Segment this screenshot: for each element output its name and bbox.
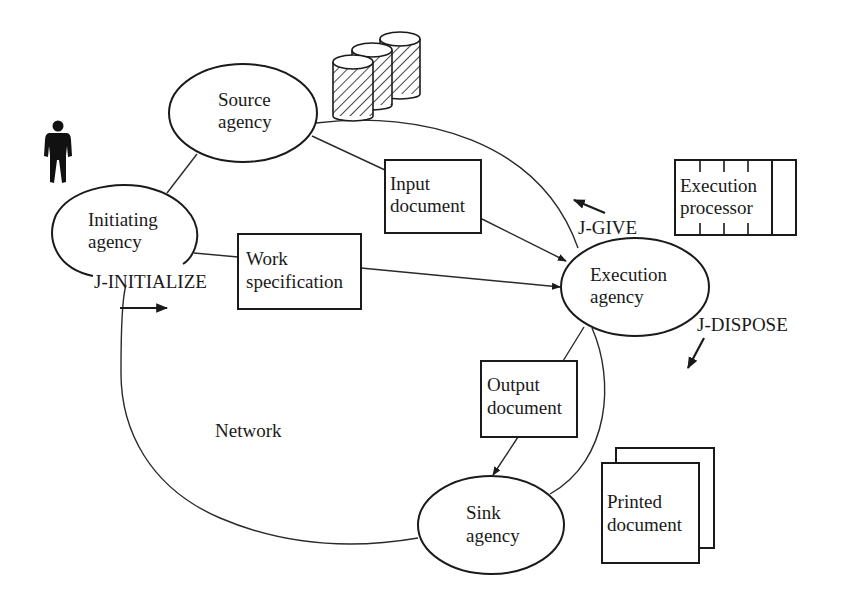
edge-input-document-execution (482, 219, 566, 261)
j-dispose-label: J-DISPOSE (697, 314, 788, 335)
j-give-label: J-GIVE (578, 217, 637, 238)
sink-agency-label-line1: Sink (466, 502, 501, 523)
person-icon (44, 121, 72, 184)
j-give-arrow-icon (574, 200, 605, 213)
work-specification-label-line2: specification (246, 271, 344, 292)
initiating-agency-label-line2: agency (88, 231, 142, 252)
edges (121, 120, 605, 544)
sink-agency-label-line2: agency (466, 525, 520, 546)
edge-source-input-document (312, 136, 385, 170)
edge-initiating-source (167, 154, 197, 193)
cylinder-1 (333, 55, 373, 121)
j-initialize-label: J-INITIALIZE (94, 271, 207, 292)
execution-agency-node: Execution agency (561, 238, 709, 336)
output-document-label-line1: Output (487, 374, 541, 395)
work-specification-label-line1: Work (246, 248, 288, 269)
network-boundary-curve (121, 285, 418, 544)
source-agency-node: Source agency (169, 64, 317, 162)
execution-processor-label-line1: Execution (680, 175, 758, 196)
work-specification-box: Work specification (238, 234, 361, 309)
edge-execution-output-document (563, 327, 584, 361)
execution-agency-label-line2: agency (590, 286, 644, 307)
execution-processor-label-line2: processor (680, 197, 753, 218)
execution-processor-box: Execution processor (675, 160, 796, 235)
source-agency-label-line2: agency (218, 111, 272, 132)
job-network-diagram: Source agency Initiating agency J-INITIA… (0, 0, 843, 609)
sink-agency-node: Sink agency (418, 476, 564, 574)
edge-work-spec-execution (361, 268, 560, 287)
network-label: Network (215, 420, 282, 441)
output-document-box: Output document (481, 361, 577, 437)
input-document-label-line1: Input (390, 173, 431, 194)
printed-document-label-line1: Printed (607, 491, 662, 512)
initiating-agency-node: Initiating agency (52, 185, 197, 276)
output-document-label-line2: document (487, 397, 563, 418)
database-cylinders-icon (333, 32, 420, 121)
edge-initiating-work-spec (194, 253, 238, 257)
source-agency-label-line1: Source (218, 89, 271, 110)
edge-output-document-sink (493, 437, 518, 475)
printed-document-stack: Printed document (602, 448, 714, 563)
printed-document-label-line2: document (607, 514, 683, 535)
input-document-box: Input document (385, 160, 481, 233)
j-dispose-arrow-icon (688, 338, 704, 368)
initiating-agency-label-line1: Initiating (88, 209, 158, 230)
execution-agency-label-line1: Execution (590, 264, 668, 285)
input-document-label-line2: document (390, 195, 466, 216)
